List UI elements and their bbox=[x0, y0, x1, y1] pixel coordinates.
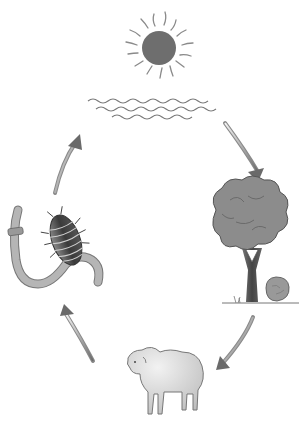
sheep-icon bbox=[127, 347, 203, 414]
arrow-icon bbox=[60, 304, 93, 361]
rock-icon bbox=[266, 277, 289, 301]
arrow-icon bbox=[55, 134, 82, 193]
water-waves-icon bbox=[88, 99, 216, 119]
arrow-icon bbox=[216, 317, 253, 370]
nutrient-cycle-diagram bbox=[0, 0, 299, 439]
arrow-icon bbox=[225, 123, 264, 182]
worm-and-woodlouse-icon bbox=[8, 201, 99, 284]
sun-icon bbox=[126, 12, 193, 78]
